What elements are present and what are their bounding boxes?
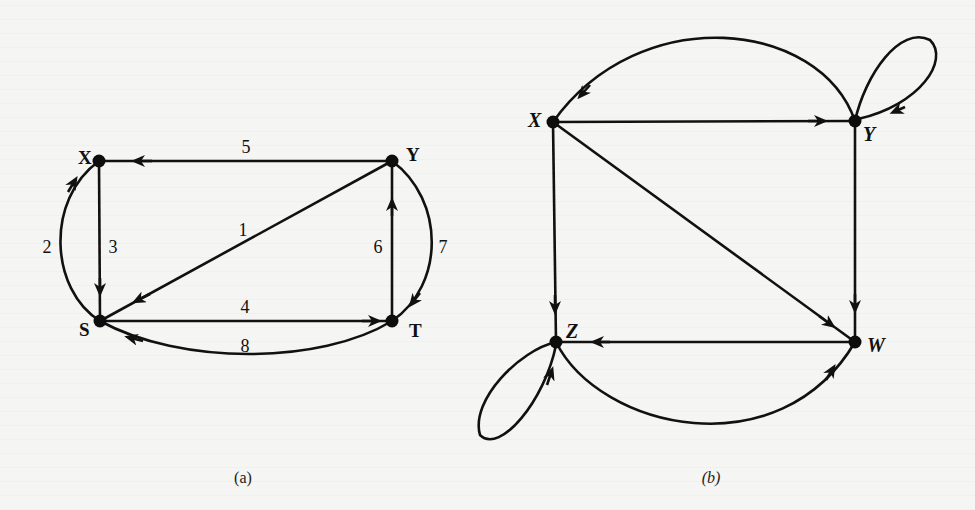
edge-a-2-s-to-x: [60, 161, 100, 321]
caption-b: (b): [702, 469, 721, 487]
node-a-x: [93, 155, 106, 168]
edge-weight-2: 2: [43, 237, 52, 257]
edge-weight-6: 6: [374, 237, 383, 257]
node-a-s: [94, 315, 107, 328]
caption-a: (a): [234, 469, 252, 487]
node-a-t: [386, 315, 399, 328]
node-label-a-s: S: [79, 319, 90, 340]
edge-b-x-to-z: [553, 122, 556, 342]
graph-a: 5 1 2 3 6 7 4 8 X Y S T (a): [43, 137, 448, 487]
node-label-b-y: Y: [863, 123, 877, 145]
edge-weight-8: 8: [241, 336, 250, 356]
edge-b-z-to-w: [556, 342, 855, 424]
edge-b-y-self-loop: [855, 37, 936, 121]
edge-weight-4: 4: [241, 297, 250, 317]
node-label-b-z: Z: [565, 320, 578, 342]
node-b-x: [547, 116, 560, 129]
edge-b-y-to-x: [553, 38, 855, 122]
edge-a-3-x-to-s: [99, 161, 100, 321]
edge-b-x-to-y: [553, 121, 855, 122]
edge-weight-5: 5: [242, 137, 251, 157]
node-label-a-t: T: [409, 320, 422, 341]
node-label-a-y: Y: [406, 144, 420, 165]
node-label-b-w: W: [867, 334, 886, 356]
graph-b: X Y Z W (b): [479, 37, 936, 487]
node-b-z: [550, 336, 563, 349]
edge-weight-3: 3: [109, 237, 118, 257]
edge-weight-1: 1: [239, 220, 248, 240]
edge-b-x-to-w: [553, 122, 855, 342]
node-b-y: [849, 115, 862, 128]
node-label-a-x: X: [78, 147, 92, 168]
edge-a-7-y-to-t: [392, 161, 432, 321]
node-a-y: [386, 155, 399, 168]
edge-b-z-self-loop: [479, 342, 556, 439]
directed-graphs-figure: 5 1 2 3 6 7 4 8 X Y S T (a): [0, 0, 975, 510]
edge-weight-7: 7: [439, 237, 448, 257]
node-b-w: [849, 336, 862, 349]
node-label-b-x: X: [527, 109, 542, 131]
